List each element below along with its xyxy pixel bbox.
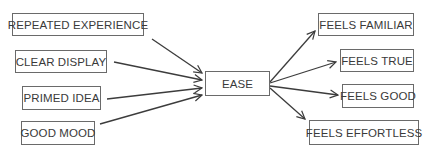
arrow-ease-to-feels-good: [270, 86, 338, 95]
cause-repeated-experience: REPEATED EXPERIENCE: [12, 13, 144, 36]
effect-feels-true: FEELS TRUE: [340, 49, 414, 72]
effect-feels-good: FEELS GOOD: [342, 84, 414, 108]
arrow-repeated-experience-to-ease: [152, 39, 202, 73]
effect-label: FEELS EFFORTLESS: [306, 127, 422, 139]
cause-label: GOOD MOOD: [21, 127, 96, 139]
effect-label: FEELS GOOD: [340, 90, 416, 102]
center-label: EASE: [222, 78, 253, 90]
cause-primed-idea: PRIMED IDEA: [22, 86, 101, 110]
cause-label: CLEAR DISPLAY: [16, 56, 107, 68]
arrow-good-mood-to-ease: [100, 95, 202, 124]
effect-feels-familiar: FEELS FAMILIAR: [318, 13, 414, 36]
arrow-ease-to-feels-familiar: [270, 31, 315, 82]
effect-label: FEELS FAMILIAR: [319, 19, 412, 31]
effect-feels-effortless: FEELS EFFORTLESS: [309, 120, 419, 145]
cause-good-mood: GOOD MOOD: [21, 121, 95, 145]
cause-label: REPEATED EXPERIENCE: [8, 19, 148, 31]
effect-label: FEELS TRUE: [341, 55, 413, 67]
arrow-ease-to-feels-true: [270, 62, 336, 83]
center-ease: EASE: [205, 71, 270, 96]
cause-label: PRIMED IDEA: [24, 92, 100, 104]
cause-clear-display: CLEAR DISPLAY: [15, 50, 107, 73]
arrow-primed-idea-to-ease: [107, 88, 202, 99]
arrow-ease-to-feels-effortless: [270, 88, 305, 119]
